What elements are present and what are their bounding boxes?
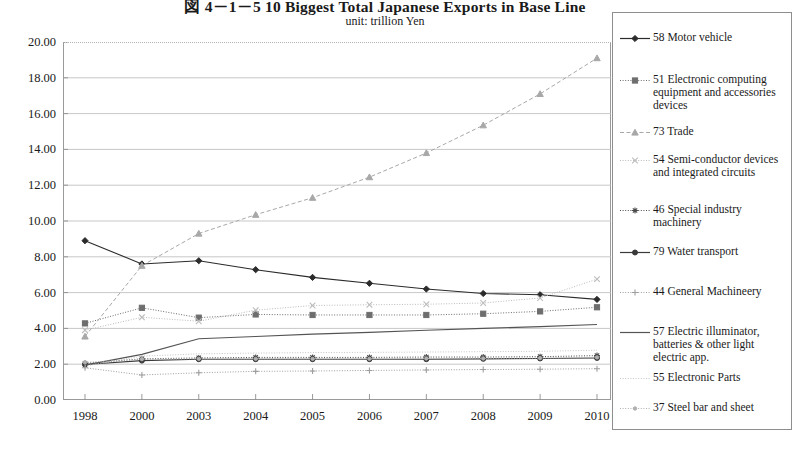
y-tick-label: 6.00 <box>4 285 56 300</box>
x-tick-label: 2010 <box>585 409 610 424</box>
legend-label: 79 Water transport <box>651 245 738 258</box>
y-tick-label: 12.00 <box>4 178 56 193</box>
x-tick-label: 2005 <box>300 409 325 424</box>
chart-subtitle: unit: trillion Yen <box>150 14 620 29</box>
y-tick-label: 10.00 <box>4 214 56 229</box>
legend-item-55[interactable]: 55 Electronic Parts <box>619 371 787 385</box>
plot-area <box>63 42 611 400</box>
y-tick-label: 20.00 <box>4 35 56 50</box>
legend-marker-55-icon <box>619 372 651 385</box>
legend-label: 54 Semi-conductor devices and integrated… <box>651 153 787 179</box>
series-58 <box>82 238 600 303</box>
legend-marker-73-icon <box>619 126 651 139</box>
legend-marker-54-icon <box>619 154 651 167</box>
y-tick-label: 16.00 <box>4 106 56 121</box>
legend-label: 55 Electronic Parts <box>651 371 741 384</box>
y-axis-labels: 20.0018.0016.0014.0012.0010.008.006.004.… <box>0 42 56 400</box>
legend-marker-44-icon <box>619 286 651 299</box>
x-tick-label: 2000 <box>129 409 154 424</box>
x-tick-label: 2007 <box>414 409 439 424</box>
legend-label: 51 Electronic computing equipment and ac… <box>651 73 787 113</box>
series-44 <box>82 365 600 378</box>
x-tick-label: 2006 <box>357 409 382 424</box>
legend-item-37[interactable]: 37 Steel bar and sheet <box>619 401 787 415</box>
legend-item-57[interactable]: 57 Electric illuminator, batteries & oth… <box>619 325 787 365</box>
x-tick-label: 2008 <box>471 409 496 424</box>
legend-item-58[interactable]: 58 Motor vehicle <box>619 31 787 45</box>
y-tick-label: 18.00 <box>4 70 56 85</box>
legend-item-79[interactable]: 79 Water transport <box>619 245 787 259</box>
legend-label: 46 Special industry machinery <box>651 203 787 229</box>
x-tick-label: 1998 <box>73 409 98 424</box>
legend-marker-79-icon <box>619 246 651 259</box>
y-tick-label: 4.00 <box>4 321 56 336</box>
y-tick-label: 0.00 <box>4 393 56 408</box>
y-tick-label: 8.00 <box>4 249 56 264</box>
series-51 <box>82 305 599 326</box>
legend-item-73[interactable]: 73 Trade <box>619 125 787 139</box>
legend-label: 73 Trade <box>651 125 694 138</box>
series-73 <box>82 55 600 339</box>
x-tick-label: 2009 <box>528 409 553 424</box>
legend-box: 58 Motor vehicle51 Electronic computing … <box>612 12 792 430</box>
legend-label: 37 Steel bar and sheet <box>651 401 754 414</box>
legend-item-44[interactable]: 44 General Machineery <box>619 285 787 299</box>
y-tick-label: 2.00 <box>4 357 56 372</box>
legend-label: 57 Electric illuminator, batteries & oth… <box>651 325 787 365</box>
legend-item-51[interactable]: 51 Electronic computing equipment and ac… <box>619 73 787 113</box>
series-lines <box>63 42 611 400</box>
legend-marker-51-icon <box>619 74 651 87</box>
legend-marker-58-icon <box>619 32 651 45</box>
legend-label: 44 General Machineery <box>651 285 762 298</box>
x-tick-label: 2004 <box>243 409 268 424</box>
legend-marker-46-icon <box>619 204 651 217</box>
legend-label: 58 Motor vehicle <box>651 31 732 44</box>
legend-item-46[interactable]: 46 Special industry machinery <box>619 203 787 229</box>
x-tick-label: 2003 <box>186 409 211 424</box>
legend-marker-37-icon <box>619 402 651 415</box>
legend-marker-57-icon <box>619 326 651 339</box>
legend-item-54[interactable]: 54 Semi-conductor devices and integrated… <box>619 153 787 179</box>
x-axis-labels: 1998200020032004200520062007200820092010 <box>63 407 611 429</box>
chart-page: 図 4－1－5 10 Biggest Total Japanese Export… <box>0 0 801 450</box>
series-54 <box>82 276 600 333</box>
y-tick-label: 14.00 <box>4 142 56 157</box>
